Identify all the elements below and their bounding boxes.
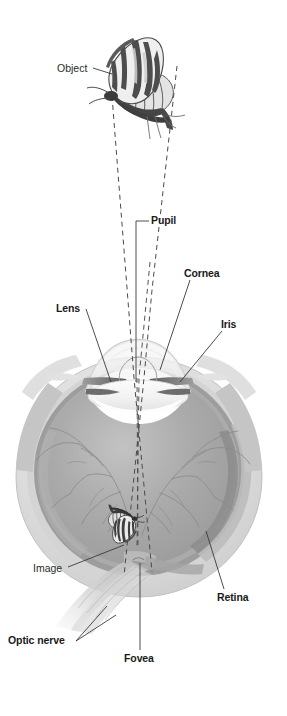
label-cornea: Cornea [184, 268, 220, 279]
label-lens: Lens [56, 303, 80, 314]
object-butterfly [87, 38, 185, 139]
label-retina: Retina [217, 592, 249, 603]
eye-optics-diagram: Object Pupil Cornea Lens Iris Image Reti… [0, 0, 287, 716]
label-optic-nerve: Optic nerve [8, 635, 65, 646]
label-iris: Iris [221, 319, 236, 330]
label-pupil: Pupil [151, 215, 176, 226]
label-fovea: Fovea [124, 653, 154, 664]
eyeball-group [16, 340, 262, 634]
leader-cornea [160, 280, 190, 370]
leader-object [93, 68, 112, 74]
diagram-canvas [0, 0, 287, 716]
label-object: Object [57, 63, 87, 74]
label-image: Image [33, 563, 62, 574]
